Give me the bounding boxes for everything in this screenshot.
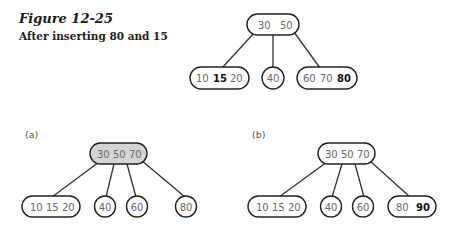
key: 70 [320,73,333,84]
tree-a: 30 50 70 10 15 20 40 60 80 [22,143,197,217]
key: 50 [341,149,354,160]
key-new: 80 [337,73,351,84]
key: 10 [30,202,43,213]
key: 20 [288,202,301,213]
top-child-node-3: 60 70 80 [297,67,357,89]
top-root-node: 30 50 [247,14,299,35]
key: 60 [357,202,370,213]
top-child-node-1: 10 15 20 [190,67,249,89]
tree-b-child-node-4: 80 90 [388,196,436,217]
key: 40 [99,202,112,213]
key: 20 [62,202,75,213]
edge [355,164,364,197]
key: 80 [396,202,409,213]
key: 50 [113,149,126,160]
key: 15 [272,202,285,213]
tree-b: 30 50 70 10 15 20 40 60 80 90 [248,143,436,217]
edge [52,162,99,197]
tree-b-child-node-2: 40 [321,196,342,217]
tree-b-root-node: 30 50 70 [318,143,375,164]
key: 80 [180,202,193,213]
key: 15 [46,202,59,213]
btree-diagram: 30 50 10 15 20 40 60 70 80 30 50 [0,0,454,227]
key: 30 [97,149,110,160]
key: 10 [196,73,209,84]
key: 40 [325,202,338,213]
tree-a-child-node-1: 10 15 20 [22,196,80,217]
tree-a-child-node-4: 80 [176,196,197,217]
edge [141,160,185,197]
edge [127,164,136,197]
key: 40 [267,73,280,84]
edge [369,160,410,197]
key: 60 [131,202,144,213]
key: 60 [303,73,316,84]
key: 30 [325,149,338,160]
key: 50 [280,20,293,31]
tree-a-root-node: 30 50 70 [90,143,147,164]
key: 70 [129,149,142,160]
edge [332,164,342,197]
tree-b-child-node-3: 60 [353,196,374,217]
edge [279,162,327,197]
key: 70 [357,149,370,160]
edge [106,164,114,197]
key: 20 [230,73,243,84]
key: 10 [256,202,269,213]
tree-a-child-node-2: 40 [95,196,116,217]
tree-a-child-node-3: 60 [127,196,148,217]
key-new: 15 [213,73,227,84]
tree-b-child-node-1: 10 15 20 [248,196,306,217]
top-child-node-2: 40 [262,67,284,89]
key-new: 90 [416,202,430,213]
edge [222,33,254,68]
key: 30 [258,20,271,31]
edge [294,32,320,68]
top-tree: 30 50 10 15 20 40 60 70 80 [190,14,357,89]
